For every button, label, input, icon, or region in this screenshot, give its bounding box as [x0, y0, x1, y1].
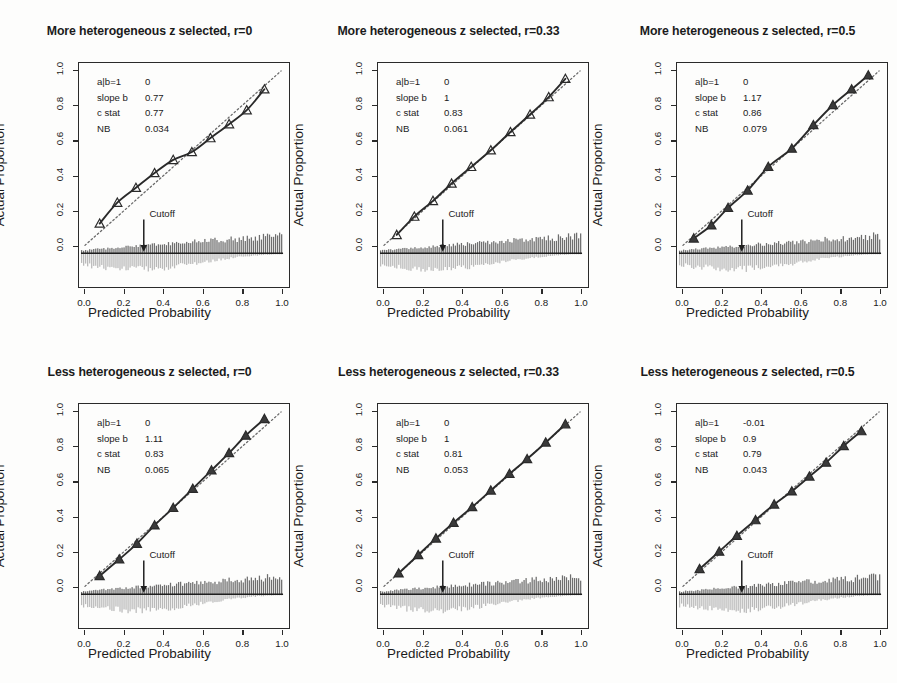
y-tick-label: 0.4 — [652, 502, 663, 528]
y-tick-label: 0.2 — [54, 537, 65, 563]
x-tick-mark — [124, 630, 125, 635]
stats-value: 0.79 — [743, 446, 762, 462]
y-tick-label: 0.6 — [54, 126, 65, 152]
x-axis-label: Predicted Probability — [299, 646, 598, 661]
cutoff-label: Cutoff — [149, 208, 174, 219]
stats-annotation: a|b=10slope b1c stat0.81NB0.053 — [396, 415, 468, 477]
stats-row: slope b1 — [396, 431, 468, 447]
x-tick-mark — [383, 289, 384, 294]
histogram-up — [81, 574, 282, 594]
y-axis-label: Actual Proportion — [590, 403, 608, 629]
y-tick-label: 1.0 — [353, 56, 364, 82]
stats-row: NB0.053 — [396, 462, 468, 478]
stats-key: slope b — [695, 431, 743, 447]
x-tick-mark — [502, 630, 503, 635]
x-axis-label: Predicted Probability — [0, 646, 299, 661]
histogram-up — [380, 574, 581, 594]
histogram-down — [81, 594, 282, 613]
x-tick-mark — [682, 289, 683, 294]
x-tick-mark — [682, 630, 683, 635]
x-tick-mark — [581, 630, 582, 635]
stats-row: c stat0.77 — [97, 105, 169, 121]
stats-value: 0.86 — [743, 105, 762, 121]
stats-value: 0.9 — [743, 431, 756, 447]
stats-value: 0.043 — [743, 462, 767, 478]
stats-key: slope b — [97, 431, 145, 447]
stats-key: c stat — [695, 105, 743, 121]
stats-row: c stat0.83 — [97, 446, 169, 462]
x-tick-mark — [722, 630, 723, 635]
x-tick-mark — [84, 630, 85, 635]
x-tick-mark — [203, 630, 204, 635]
x-tick-mark — [761, 630, 762, 635]
chart-panel: More heterogeneous z selected, r=0.33Act… — [299, 0, 598, 341]
cutoff-label: Cutoff — [747, 208, 772, 219]
stats-row: a|b=10 — [396, 415, 468, 431]
y-tick-label: 0.8 — [652, 91, 663, 117]
plot-area: Cutoffa|b=10slope b1.17c stat0.86NB0.079 — [676, 62, 888, 288]
stats-key: a|b=1 — [396, 74, 444, 90]
y-tick-label: 1.0 — [652, 56, 663, 82]
y-tick-label: 0.6 — [652, 467, 663, 493]
y-tick-label: 0.2 — [54, 196, 65, 222]
stats-key: NB — [695, 462, 743, 478]
panel-title: More heterogeneous z selected, r=0.5 — [598, 24, 897, 38]
x-tick-mark — [423, 630, 424, 635]
stats-value: 1.17 — [743, 90, 762, 106]
stats-value: 0.83 — [145, 446, 164, 462]
y-axis-label: Actual Proportion — [0, 62, 10, 288]
y-axis-label: Actual Proportion — [0, 403, 10, 629]
stats-row: a|b=10 — [97, 415, 169, 431]
y-tick-label: 0.2 — [353, 537, 364, 563]
y-tick-label: 0.4 — [652, 161, 663, 187]
stats-annotation: a|b=10slope b0.77c stat0.77NB0.034 — [97, 74, 169, 136]
calibration-figure-grid: More heterogeneous z selected, r=0Actual… — [0, 0, 897, 683]
stats-row: NB0.061 — [396, 121, 468, 137]
y-tick-label: 0.2 — [353, 196, 364, 222]
stats-key: NB — [97, 121, 145, 137]
x-tick-mark — [880, 630, 881, 635]
stats-row: NB0.079 — [695, 121, 767, 137]
stats-row: c stat0.81 — [396, 446, 468, 462]
y-tick-label: 0.8 — [54, 91, 65, 117]
y-tick-label: 1.0 — [652, 397, 663, 423]
panel-title: Less heterogeneous z selected, r=0.5 — [598, 365, 897, 379]
stats-row: slope b1 — [396, 90, 468, 106]
y-tick-label: 0.0 — [652, 573, 663, 599]
stats-key: a|b=1 — [695, 74, 743, 90]
stats-key: slope b — [97, 90, 145, 106]
stats-row: slope b1.17 — [695, 90, 767, 106]
x-tick-mark — [722, 289, 723, 294]
stats-value: 0.065 — [145, 462, 169, 478]
y-axis-label: Actual Proportion — [590, 62, 608, 288]
stats-row: a|b=10 — [396, 74, 468, 90]
stats-annotation: a|b=10slope b1.17c stat0.86NB0.079 — [695, 74, 767, 136]
stats-key: NB — [97, 462, 145, 478]
stats-value: 0 — [743, 74, 748, 90]
x-tick-mark — [801, 630, 802, 635]
x-tick-mark — [880, 289, 881, 294]
panel-title: Less heterogeneous z selected, r=0 — [0, 365, 299, 379]
stats-key: a|b=1 — [97, 74, 145, 90]
plot-area: Cutoffa|b=10slope b1c stat0.83NB0.061 — [377, 62, 589, 288]
chart-panel: More heterogeneous z selected, r=0.5Actu… — [598, 0, 897, 341]
stats-row: slope b1.11 — [97, 431, 169, 447]
stats-value: 0 — [145, 415, 150, 431]
x-tick-mark — [840, 630, 841, 635]
y-tick-label: 0.8 — [54, 432, 65, 458]
stats-row: a|b=1-0.01 — [695, 415, 767, 431]
x-tick-mark — [163, 630, 164, 635]
y-tick-label: 0.6 — [54, 467, 65, 493]
y-tick-label: 0.0 — [652, 232, 663, 258]
stats-value: 0.81 — [444, 446, 463, 462]
y-tick-label: 0.0 — [54, 232, 65, 258]
stats-annotation: a|b=1-0.01slope b0.9c stat0.79NB0.043 — [695, 415, 767, 477]
stats-value: 1 — [444, 431, 449, 447]
cutoff-label: Cutoff — [448, 208, 473, 219]
x-tick-mark — [242, 630, 243, 635]
stats-value: 0 — [444, 415, 449, 431]
stats-key: NB — [396, 121, 444, 137]
x-tick-mark — [423, 289, 424, 294]
y-axis-label: Actual Proportion — [291, 403, 309, 629]
stats-key: a|b=1 — [396, 415, 444, 431]
